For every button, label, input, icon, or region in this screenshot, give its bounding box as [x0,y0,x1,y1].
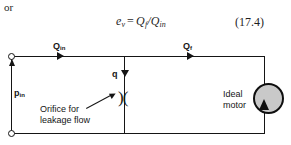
bottom-rail-wire [11,133,264,134]
orifice-leader-arrow-icon [109,91,117,99]
label-q-in-subscript: in [60,45,65,51]
motor-caption-line-1: Ideal [223,89,243,100]
pressure-arrow-icon [9,59,15,66]
label-q-f-subscript: f [190,45,192,51]
flow-arrow-q-in-icon [57,52,64,60]
motor-top-lead-wire [264,56,265,84]
orifice-symbol-icon: )( [118,89,127,106]
terminal-bottom-left [8,130,15,137]
label-q-f: Qf [183,41,192,53]
label-q-in-symbol: Q [53,41,60,51]
label-q-f-symbol: Q [183,41,190,51]
orifice-caption-line-1: Orifice for [40,104,79,115]
hydraulic-circuit-diagram: pin Qin Qf q )( Orifice for leakage flow… [0,0,291,145]
orifice-caption-line-2: leakage flow [40,115,90,126]
label-q-in: Qin [53,41,65,53]
figure-page: or ev=Qf/Qin (17.4) pin Qin [0,0,291,145]
flow-arrow-q-leak-icon [121,70,129,77]
left-source-wire [11,56,12,134]
orifice-leader-line [86,95,111,109]
motor-direction-triangle-icon [259,99,269,110]
top-rail-wire [11,56,264,57]
label-p-in-subscript: in [20,92,25,98]
flow-arrow-q-f-icon [187,52,194,60]
label-p-in: pin [14,88,25,100]
motor-caption-line-2: motor [223,100,246,111]
motor-bottom-lead-wire [264,112,265,134]
label-q-leak: q [112,69,118,79]
